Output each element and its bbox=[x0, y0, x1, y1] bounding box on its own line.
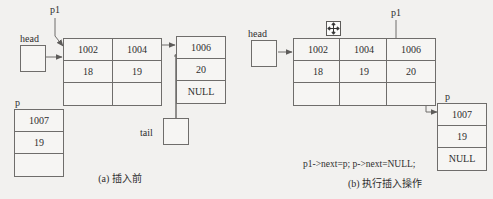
head-pointer-box-a[interactable] bbox=[20, 45, 46, 72]
node-next-cell: NULL bbox=[438, 148, 486, 170]
tail-pointer-box-a[interactable] bbox=[163, 118, 189, 145]
node-1007-a[interactable]: 1007 19 bbox=[14, 109, 64, 177]
label-head-b: head bbox=[248, 28, 267, 39]
node-1007-b[interactable]: 1007 19 NULL bbox=[437, 103, 487, 171]
node-1004-b[interactable]: 1004 19 bbox=[339, 38, 389, 106]
label-p-a: p bbox=[15, 97, 20, 108]
node-1002-a[interactable]: 1002 18 bbox=[63, 38, 113, 106]
node-address-cell: 1002 bbox=[64, 39, 112, 61]
label-p-b: p bbox=[445, 91, 450, 102]
node-value-cell: 19 bbox=[15, 132, 63, 154]
node-value-cell: 19 bbox=[113, 61, 161, 83]
node-address-cell: 1004 bbox=[340, 39, 388, 61]
node-address-cell: 1007 bbox=[438, 104, 486, 126]
node-next-cell bbox=[387, 83, 435, 105]
node-1004-a[interactable]: 1004 19 bbox=[112, 38, 162, 106]
node-value-cell: 19 bbox=[340, 61, 388, 83]
node-value-cell: 19 bbox=[438, 126, 486, 148]
label-p1-a: p1 bbox=[50, 4, 60, 15]
move-cursor-icon[interactable] bbox=[326, 21, 341, 36]
node-address-cell: 1007 bbox=[15, 110, 63, 132]
node-value-cell: 18 bbox=[294, 61, 342, 83]
node-next-cell bbox=[340, 83, 388, 105]
node-value-cell: 20 bbox=[387, 61, 435, 83]
label-p1-b: p1 bbox=[391, 7, 401, 18]
node-next-cell bbox=[294, 83, 342, 105]
node-value-cell: 18 bbox=[64, 61, 112, 83]
caption-b: (b) 执行插入操作 bbox=[320, 175, 450, 190]
node-address-cell: 1004 bbox=[113, 39, 161, 61]
node-next-cell bbox=[15, 154, 63, 176]
figure-canvas: p1 head 1002 18 1004 19 1006 20 NULL p 1… bbox=[0, 0, 493, 199]
code-line-b: p1->next=p; p->next=NULL; bbox=[303, 159, 415, 169]
label-head-a: head bbox=[20, 33, 39, 44]
head-pointer-box-b[interactable] bbox=[251, 40, 277, 67]
node-1006-a[interactable]: 1006 20 NULL bbox=[176, 36, 226, 104]
node-1006-b[interactable]: 1006 20 bbox=[386, 38, 436, 106]
node-next-cell bbox=[64, 83, 112, 105]
node-address-cell: 1002 bbox=[294, 39, 342, 61]
move-cursor-glyph bbox=[327, 22, 340, 35]
caption-a: (a) 插入前 bbox=[60, 170, 180, 185]
label-tail-a: tail bbox=[140, 127, 153, 138]
node-next-cell bbox=[113, 83, 161, 105]
node-next-cell: NULL bbox=[177, 81, 225, 103]
node-value-cell: 20 bbox=[177, 59, 225, 81]
node-address-cell: 1006 bbox=[387, 39, 435, 61]
node-address-cell: 1006 bbox=[177, 37, 225, 59]
node-1002-b[interactable]: 1002 18 bbox=[293, 38, 343, 106]
